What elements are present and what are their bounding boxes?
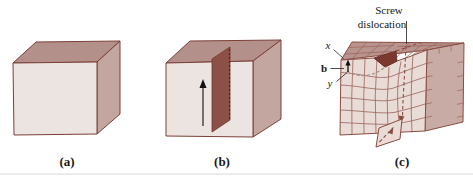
screw-dislocation-label-line1: Screw bbox=[375, 4, 403, 16]
b-label: b bbox=[321, 62, 327, 74]
cube-c-side-face bbox=[425, 43, 464, 131]
panel-a-cube bbox=[13, 41, 120, 135]
panel-c-cube: Screw dislocation x b y bbox=[321, 4, 464, 147]
x-label: x bbox=[325, 39, 331, 51]
panel-b-cube bbox=[166, 40, 281, 137]
panel-c-caption: (c) bbox=[395, 154, 409, 169]
cropped-caption-rule bbox=[0, 174, 473, 175]
x-pointer-line bbox=[334, 50, 344, 59]
cube-a-front-face bbox=[13, 62, 97, 135]
cut-plane bbox=[212, 47, 230, 132]
figure-canvas: (a) (b) bbox=[0, 0, 473, 179]
panel-b-caption: (b) bbox=[214, 154, 230, 169]
screw-dislocation-figure: (a) (b) bbox=[0, 0, 473, 179]
screw-dislocation-label-line2: dislocation bbox=[358, 18, 407, 30]
y-label: y bbox=[327, 77, 333, 89]
cube-b-front-face bbox=[166, 61, 253, 137]
panel-a-caption: (a) bbox=[59, 154, 74, 169]
